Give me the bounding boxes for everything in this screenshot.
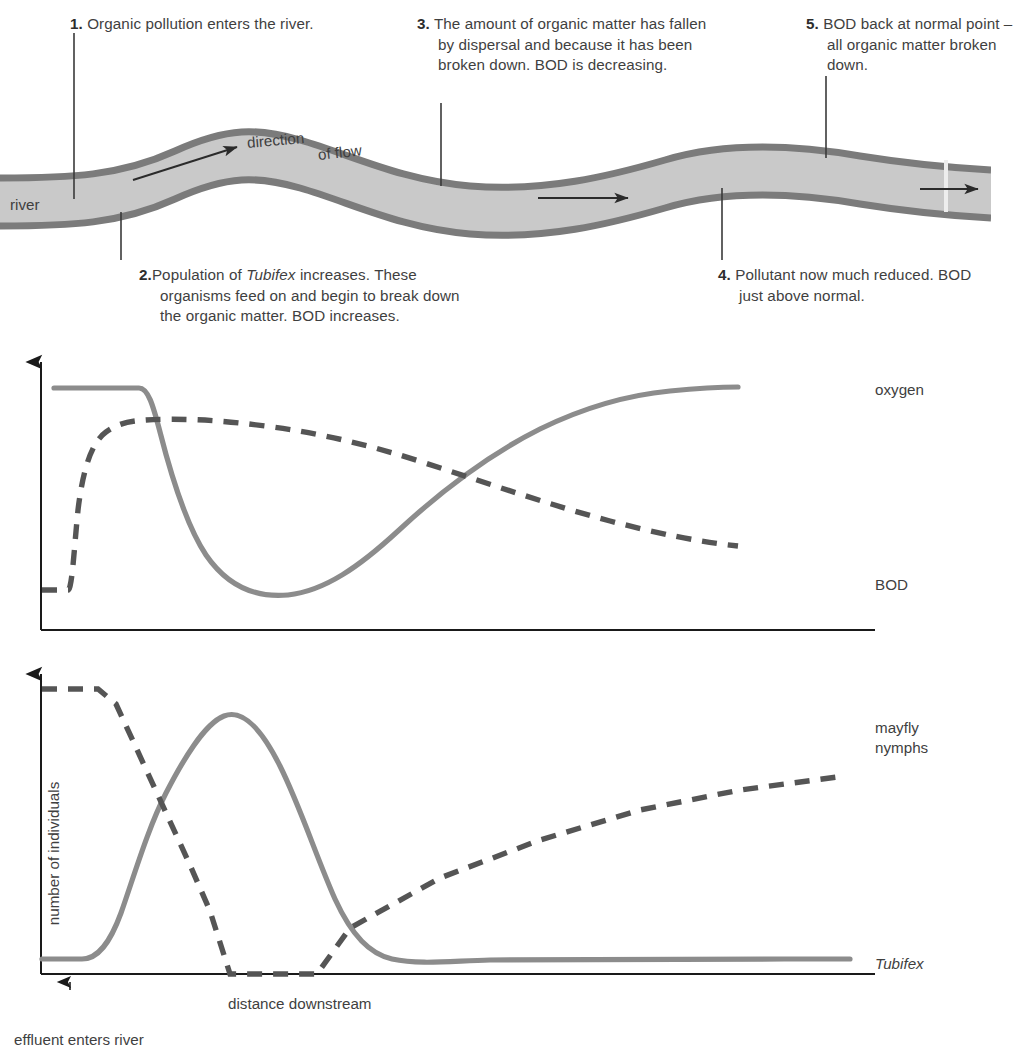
legend-label-mayfly-line1: mayfly [875, 718, 928, 738]
callout-2-species: Tubifex [246, 266, 295, 283]
legend-label-mayfly: mayfly nymphs [875, 718, 928, 758]
chart-tubifex-mayfly [20, 660, 920, 990]
river-band [0, 132, 991, 236]
callout-4: 4. Pollutant now much reduced. BOD just … [718, 265, 999, 306]
legend-label-tubifex: Tubifex [875, 955, 924, 972]
effluent-annotation: effluent enters river [14, 1031, 144, 1048]
callout-4-text: Pollutant now much reduced. BOD just abo… [735, 266, 971, 304]
chart2-series-tubifex [42, 714, 850, 962]
callout-2-number: 2. [139, 266, 152, 283]
legend-label-bod: BOD [875, 576, 908, 593]
chart2-series-mayfly [42, 689, 845, 974]
callout-2: 2.Population of Tubifex increases. These… [139, 265, 470, 327]
chart2-x-axis-label: distance downstream [228, 995, 372, 1012]
chart-oxygen-bod [20, 350, 920, 650]
chart2-y-axis-label: number of individuals [45, 759, 62, 949]
legend-label-mayfly-line2: nymphs [875, 738, 928, 758]
river-label: river [10, 196, 40, 213]
legend-label-oxygen: oxygen [875, 381, 924, 398]
chart1-series-bod [42, 419, 738, 590]
callout-2-text-pre: Population of [152, 266, 246, 283]
callout-4-number: 4. [718, 266, 731, 283]
river-diagram [0, 0, 991, 260]
